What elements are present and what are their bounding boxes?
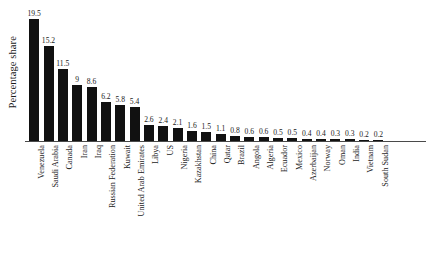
x-axis-category-labels: VenezuelaSaudi ArabiaCanadaIranIraqRussi… <box>27 143 425 267</box>
bar <box>158 126 168 141</box>
bar-value-label: 0.6 <box>245 128 255 136</box>
bar-slot: 2.1 <box>170 8 184 141</box>
bar-slot: 5.8 <box>113 8 127 141</box>
y-axis-title: Percentage share <box>2 0 24 145</box>
bar <box>87 87 97 141</box>
bar <box>101 102 111 141</box>
category-label-slot: Oman <box>328 143 342 267</box>
bar-value-label: 0.3 <box>331 130 341 138</box>
category-label-slot: Iraq <box>84 143 98 267</box>
bar-slot: 8.6 <box>84 8 98 141</box>
bar <box>115 105 125 141</box>
bar-slot: 1.5 <box>199 8 213 141</box>
bar-value-label: 5.4 <box>130 98 140 106</box>
bar-value-label: 1.5 <box>202 123 212 131</box>
category-label-slot: China <box>199 143 213 267</box>
bar-slot: 0.2 <box>357 8 371 141</box>
category-label-slot: Nigeria <box>170 143 184 267</box>
bar-slot: 0.5 <box>285 8 299 141</box>
bar-value-label: 0.4 <box>302 130 312 138</box>
bar-value-label: 6.2 <box>101 93 111 101</box>
bar-value-label: 0.2 <box>374 131 384 139</box>
bar <box>144 125 154 141</box>
bar-value-label: 8.6 <box>87 78 97 86</box>
bar-slot: 2.6 <box>142 8 156 141</box>
category-label-slot: Mexico <box>285 143 299 267</box>
category-label-slot: US <box>156 143 170 267</box>
bar-value-label: 2.4 <box>159 117 169 125</box>
bar-value-label: 0.4 <box>316 130 326 138</box>
bar-slot: 19.5 <box>27 8 41 141</box>
category-label: South Sudan <box>382 145 390 187</box>
bar-value-label: 11.5 <box>56 60 69 68</box>
bar-value-label: 5.8 <box>115 96 125 104</box>
bar-slot: 0.6 <box>242 8 256 141</box>
bar <box>187 131 197 141</box>
category-label-slot: Russian Federation <box>99 143 113 267</box>
bar-slot: 0.8 <box>228 8 242 141</box>
bar-value-label: 9 <box>75 76 79 84</box>
bar <box>29 19 39 141</box>
bar-slot: 0.4 <box>300 8 314 141</box>
bar-value-label: 0.6 <box>259 128 269 136</box>
category-label-slot: India <box>343 143 357 267</box>
category-label-slot: Venezuela <box>27 143 41 267</box>
bar-value-label: 2.6 <box>144 116 154 124</box>
y-axis-label-text: Percentage share <box>8 36 19 108</box>
bar-value-label: 0.3 <box>345 130 355 138</box>
bar-slot: 15.2 <box>41 8 55 141</box>
bar-slot: 0.6 <box>257 8 271 141</box>
bar-slot: 0.4 <box>314 8 328 141</box>
bar-value-label: 15.2 <box>42 37 55 45</box>
bar-slot: 9 <box>70 8 84 141</box>
bar-slot: 6.2 <box>99 8 113 141</box>
category-label-slot: Libya <box>142 143 156 267</box>
category-label-slot: Canada <box>56 143 70 267</box>
category-label-slot: Norway <box>314 143 328 267</box>
category-label-slot: Saudi Arabia <box>41 143 55 267</box>
bar <box>130 107 140 141</box>
bar-slot: 5.4 <box>127 8 141 141</box>
bar-value-label: 1.6 <box>187 122 197 130</box>
category-label-slot: Algeria <box>257 143 271 267</box>
category-label-slot: Brazil <box>228 143 242 267</box>
category-label-slot: Kazakhstan <box>185 143 199 267</box>
category-label-slot: South Sudan <box>371 143 385 267</box>
bar-slot: 0.3 <box>343 8 357 141</box>
category-label-slot: Ecuador <box>271 143 285 267</box>
bar-value-label: 0.5 <box>273 129 283 137</box>
bar <box>173 128 183 141</box>
bar-series: 19.515.211.598.66.25.85.42.62.42.11.61.5… <box>27 8 425 141</box>
category-label-slot: Vietnam <box>357 143 371 267</box>
bar-slot: 1.1 <box>213 8 227 141</box>
category-label-slot: Kuwait <box>113 143 127 267</box>
category-label-slot: United Arab Emirates <box>127 143 141 267</box>
plot-area: 19.515.211.598.66.25.85.42.62.42.11.61.5… <box>27 8 425 141</box>
bar-slot: 0.2 <box>371 8 385 141</box>
bar-slot: 0.3 <box>328 8 342 141</box>
bar-value-label: 0.5 <box>288 129 298 137</box>
category-label-slot: Qatar <box>213 143 227 267</box>
bar-slot: 0.5 <box>271 8 285 141</box>
bar <box>58 69 68 141</box>
category-label-slot: Azerbaijan <box>300 143 314 267</box>
category-label-slot: Angola <box>242 143 256 267</box>
category-label-slot: Iran <box>70 143 84 267</box>
bar <box>44 46 54 141</box>
bar-value-label: 2.1 <box>173 119 183 127</box>
bar-value-label: 1.1 <box>216 125 226 133</box>
bar-value-label: 0.2 <box>359 131 369 139</box>
bar <box>72 85 82 141</box>
x-axis-line <box>25 141 426 142</box>
bar-slot: 11.5 <box>56 8 70 141</box>
bar-value-label: 0.8 <box>230 127 240 135</box>
bar-value-label: 19.5 <box>28 10 41 18</box>
bar-slot: 2.4 <box>156 8 170 141</box>
bar <box>201 132 211 141</box>
bar-slot: 1.6 <box>185 8 199 141</box>
bar <box>216 134 226 141</box>
bar-chart: Percentage share 19.515.211.598.66.25.85… <box>0 0 429 269</box>
